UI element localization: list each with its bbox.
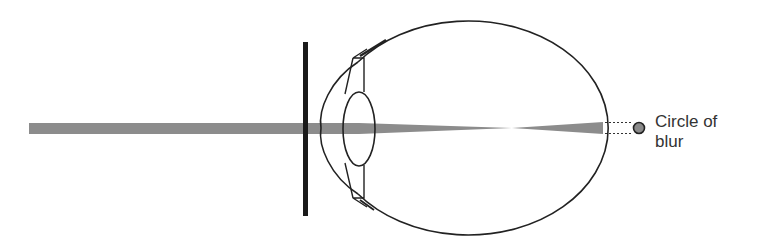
circle-of-blur-label: Circle of blur	[655, 112, 717, 152]
circle-of-blur-dot	[634, 123, 645, 134]
eye-diagram	[0, 0, 763, 238]
incoming-light-beam	[29, 123, 359, 134]
label-line-2: blur	[655, 132, 717, 152]
aperture-bar	[303, 42, 308, 216]
retina-blur-cone	[512, 122, 603, 134]
label-line-1: Circle of	[655, 112, 717, 132]
upper-sclera-mark	[360, 40, 386, 56]
converging-beam	[359, 123, 512, 134]
lower-ciliary-body	[345, 163, 367, 207]
